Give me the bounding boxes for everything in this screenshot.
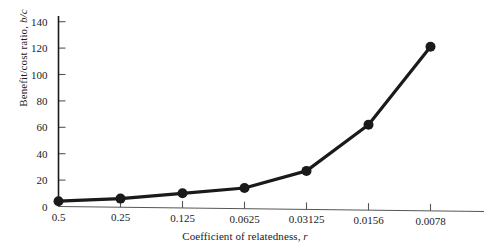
data-point: [364, 120, 374, 130]
data-point: [426, 42, 436, 52]
y-axis-label: Benefit/cost ratio, b/c: [17, 0, 29, 143]
x-tick-label: 0.25: [111, 211, 131, 223]
y-tick-label: 40: [37, 148, 49, 160]
y-tick-label: 140: [31, 16, 48, 28]
data-point: [302, 166, 312, 176]
x-tick-label: 0.0078: [415, 215, 446, 227]
data-point: [240, 183, 250, 193]
line-chart-plot: 020406080100120140 0.50.250.1250.06250.0…: [0, 0, 490, 251]
y-tick-label: 60: [37, 121, 49, 133]
y-tick-label: 100: [31, 69, 48, 81]
y-axis-ticks: 020406080100120140: [31, 16, 66, 213]
x-axis-label: Coefficient of relatedness, r: [0, 230, 490, 242]
x-axis-ticks: 0.50.250.1250.06250.031250.01560.0078: [52, 200, 447, 227]
data-point: [54, 196, 64, 206]
y-axis-label-italic: b/c: [17, 9, 29, 23]
y-tick-label: 120: [31, 42, 48, 54]
data-point: [178, 188, 188, 198]
y-tick-label: 20: [37, 174, 49, 186]
x-tick-label: 0.0625: [229, 213, 260, 225]
x-tick-label: 0.5: [52, 211, 66, 223]
data-point: [116, 194, 126, 204]
x-axis-label-main: Coefficient of relatedness,: [182, 230, 303, 242]
y-tick-label: 0: [42, 201, 48, 213]
x-tick-label: 0.03125: [289, 213, 325, 225]
x-axis-label-italic: r: [303, 230, 307, 242]
x-tick-label: 0.0156: [353, 214, 384, 226]
data-series-line: [59, 47, 431, 201]
y-axis-label-main: Benefit/cost ratio,: [17, 23, 29, 107]
y-tick-label: 80: [37, 95, 49, 107]
data-point-markers: [54, 42, 436, 206]
x-tick-label: 0.125: [170, 212, 195, 224]
chart-figure: 020406080100120140 0.50.250.1250.06250.0…: [0, 0, 490, 251]
